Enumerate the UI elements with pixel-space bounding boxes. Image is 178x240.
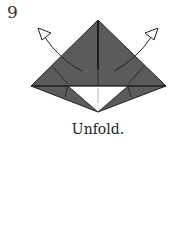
instruction-caption: Unfold.: [0, 121, 178, 137]
